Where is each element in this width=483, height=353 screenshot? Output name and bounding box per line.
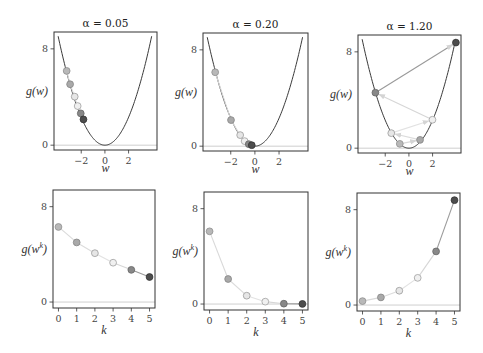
panel-top-alpha-1-20: 08−202α = 1.20wg(w) (330, 20, 461, 178)
y-tick-label: 0 (192, 298, 198, 309)
x-tick-label: 2 (276, 156, 282, 167)
x-tick-label: 2 (244, 315, 250, 326)
iterate-point-3 (74, 103, 81, 110)
iterate-point-3 (262, 298, 269, 305)
y-axis-label: g(wk) (325, 244, 351, 259)
x-tick-label: 0 (207, 315, 213, 326)
iterate-point-3 (429, 116, 436, 123)
y-axis-label-base: g(w (21, 242, 39, 256)
y-axis-label-base: g(w) (175, 85, 197, 99)
y-axis-label: g(w) (175, 85, 197, 99)
x-tick-label: 2 (92, 313, 98, 324)
iterate-point-1 (225, 276, 232, 283)
plot-area (53, 190, 155, 308)
y-tick-label: 0 (346, 142, 352, 153)
y-axis-label-base: g(w) (26, 84, 48, 98)
y-tick-label: 8 (345, 204, 351, 215)
x-axis-label: k (101, 323, 107, 337)
iterate-point-1 (228, 117, 235, 124)
iterate-point-1 (417, 136, 424, 143)
y-axis-label-base: g(w (325, 245, 343, 259)
iterate-point-2 (237, 132, 244, 139)
x-tick-label: 1 (225, 315, 231, 326)
x-axis-label: w (251, 162, 259, 176)
x-tick-label: −2 (378, 158, 392, 169)
x-tick-label: 1 (378, 316, 384, 327)
y-tick-label: 0 (345, 299, 351, 310)
y-axis-label-base: g(w (172, 244, 190, 258)
x-tick-label: 2 (126, 155, 132, 166)
y-tick-label: 8 (192, 203, 198, 214)
x-tick-label: 2 (396, 316, 402, 327)
iterate-point-4 (128, 266, 135, 273)
iterate-point-4 (433, 248, 440, 255)
y-axis-label-close: ) (42, 242, 47, 256)
x-tick-label: 4 (281, 315, 287, 326)
y-tick-label: 0 (191, 140, 197, 151)
iterate-point-3 (414, 274, 421, 281)
y-tick-label: 8 (41, 201, 47, 212)
x-tick-label: −2 (74, 155, 88, 166)
x-tick-label: 4 (433, 316, 439, 327)
y-axis-label: g(w) (330, 87, 352, 101)
x-tick-label: 5 (147, 313, 153, 324)
y-tick-label: 8 (42, 43, 48, 54)
x-tick-label: 0 (359, 316, 365, 327)
iterate-point-5 (451, 197, 458, 204)
plot-area (357, 193, 460, 311)
iterate-point-5 (299, 301, 306, 308)
panel-bottom-cost-history-alpha-1-20: 08012345kg(wk) (325, 193, 460, 340)
panel-top-alpha-0-20: 08−202α = 0.20wg(w) (175, 18, 308, 176)
iterate-point-0 (359, 298, 366, 305)
x-tick-label: 4 (128, 313, 134, 324)
x-axis-label: k (406, 326, 412, 340)
iterate-point-0 (55, 224, 62, 231)
x-tick-label: −2 (224, 156, 238, 167)
iterate-point-2 (91, 250, 98, 257)
x-tick-label: 5 (451, 316, 457, 327)
iterate-point-4 (372, 89, 379, 96)
x-tick-label: 1 (74, 313, 80, 324)
x-axis-label: w (101, 161, 109, 175)
panel-bottom-cost-history-alpha-0-05: 08012345kg(wk) (21, 190, 155, 337)
iterate-point-1 (67, 81, 74, 88)
y-axis-label: g(wk) (21, 241, 47, 256)
y-axis-label-base: g(w) (330, 87, 352, 101)
x-tick-label: 3 (110, 313, 116, 324)
iterate-point-5 (80, 116, 87, 123)
iterate-point-0 (206, 228, 213, 235)
plot-area (204, 192, 308, 310)
x-axis-label: k (253, 325, 259, 339)
iterate-point-2 (396, 287, 403, 294)
iterate-point-0 (396, 140, 403, 147)
x-axis-label: w (405, 164, 413, 178)
y-tick-label: 0 (41, 296, 47, 307)
iterate-point-2 (243, 292, 250, 299)
iterate-point-0 (63, 67, 70, 74)
y-tick-label: 0 (42, 139, 48, 150)
x-tick-label: 3 (262, 315, 268, 326)
iterate-point-5 (146, 274, 153, 281)
iterate-point-5 (248, 142, 255, 149)
y-axis-label-close: ) (193, 244, 198, 258)
y-tick-label: 8 (346, 46, 352, 57)
figure: 08−202α = 0.05wg(w) 08−202α = 0.20wg(w) … (0, 0, 483, 353)
y-axis-label-close: ) (346, 245, 351, 259)
iterate-point-4 (280, 300, 287, 307)
y-axis-label: g(w) (26, 84, 48, 98)
iterate-point-0 (212, 69, 219, 76)
panel-title: α = 0.20 (233, 18, 279, 30)
plot-area (203, 33, 308, 151)
x-tick-label: 2 (430, 158, 436, 169)
iterate-point-2 (71, 93, 78, 100)
plot-area (54, 32, 157, 150)
iterate-point-3 (110, 259, 117, 266)
iterate-point-5 (453, 39, 460, 46)
x-tick-label: 3 (415, 316, 421, 327)
panel-title: α = 1.20 (387, 20, 433, 32)
iterate-point-1 (378, 294, 385, 301)
y-tick-label: 8 (191, 44, 197, 55)
iterate-point-2 (388, 130, 395, 137)
panel-bottom-cost-history-alpha-0-20: 08012345kg(wk) (172, 192, 308, 339)
iterate-point-1 (73, 239, 80, 246)
